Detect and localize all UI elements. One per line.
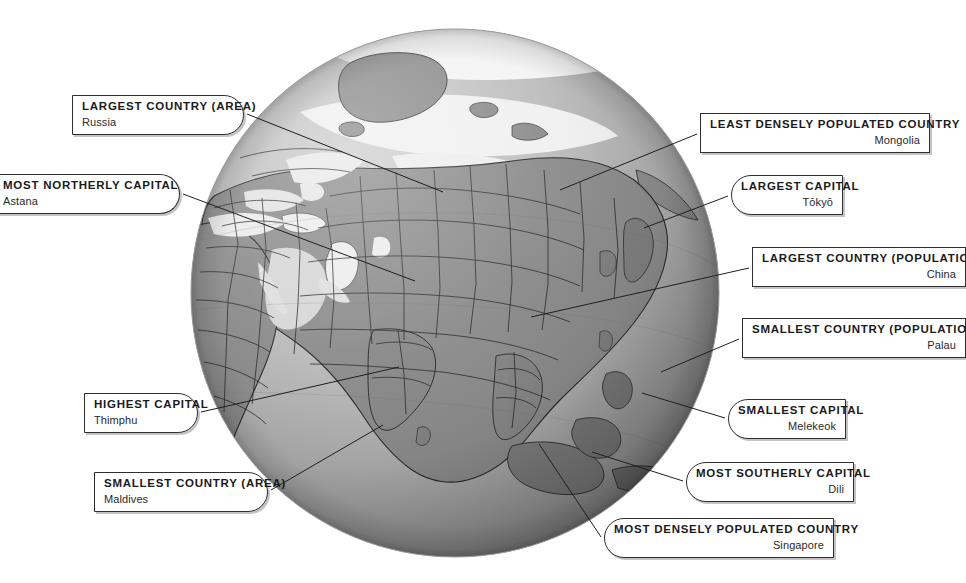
callout-value: Singapore <box>614 540 824 551</box>
callout-title: SMALLEST COUNTRY (POPULATION) <box>752 324 956 336</box>
callout-value: Dili <box>696 484 844 495</box>
callout-value: Mongolia <box>710 135 920 146</box>
callout-most-southerly-capital[interactable]: MOST SOUTHERLY CAPITALDili <box>686 462 854 502</box>
callout-value: Maldives <box>104 494 258 505</box>
callout-largest-country-area[interactable]: LARGEST COUNTRY (AREA)Russia <box>72 95 244 135</box>
callout-smallest-capital[interactable]: SMALLEST CAPITALMelekeok <box>728 399 846 439</box>
callout-title: HIGHEST CAPITAL <box>94 399 188 411</box>
callout-title: SMALLEST CAPITAL <box>738 405 836 417</box>
callout-value: Russia <box>82 117 234 128</box>
globe-infographic-page: LARGEST COUNTRY (AREA)RussiaMOST NORTHER… <box>0 0 966 583</box>
callout-smallest-country-population[interactable]: SMALLEST COUNTRY (POPULATION)Palau <box>742 318 966 358</box>
callout-title: SMALLEST COUNTRY (AREA) <box>104 478 258 490</box>
callout-largest-country-population[interactable]: LARGEST COUNTRY (POPULATION)China <box>752 247 966 287</box>
callout-largest-capital[interactable]: LARGEST CAPITALTōkyō <box>731 175 843 215</box>
callout-value: Thimphu <box>94 415 188 426</box>
callout-title: MOST DENSELY POPULATED COUNTRY <box>614 524 824 536</box>
callout-smallest-country-area[interactable]: SMALLEST COUNTRY (AREA)Maldives <box>94 472 268 512</box>
callout-value: Melekeok <box>738 421 836 432</box>
callout-value: China <box>762 269 956 280</box>
callout-title: LARGEST COUNTRY (AREA) <box>82 101 234 113</box>
callout-most-densely-populated-country[interactable]: MOST DENSELY POPULATED COUNTRYSingapore <box>604 518 834 558</box>
callout-title: LARGEST COUNTRY (POPULATION) <box>762 253 956 265</box>
callout-title: MOST NORTHERLY CAPITAL <box>3 180 170 192</box>
callout-least-densely-populated-country[interactable]: LEAST DENSELY POPULATED COUNTRYMongolia <box>700 113 930 153</box>
callout-most-northerly-capital[interactable]: MOST NORTHERLY CAPITALAstana <box>0 174 180 214</box>
callout-value: Astana <box>3 196 170 207</box>
callout-highest-capital[interactable]: HIGHEST CAPITALThimphu <box>84 393 198 433</box>
callout-value: Palau <box>752 340 956 351</box>
callout-title: LEAST DENSELY POPULATED COUNTRY <box>710 119 920 131</box>
callout-title: MOST SOUTHERLY CAPITAL <box>696 468 844 480</box>
callout-title: LARGEST CAPITAL <box>741 181 833 193</box>
callout-value: Tōkyō <box>741 197 833 208</box>
